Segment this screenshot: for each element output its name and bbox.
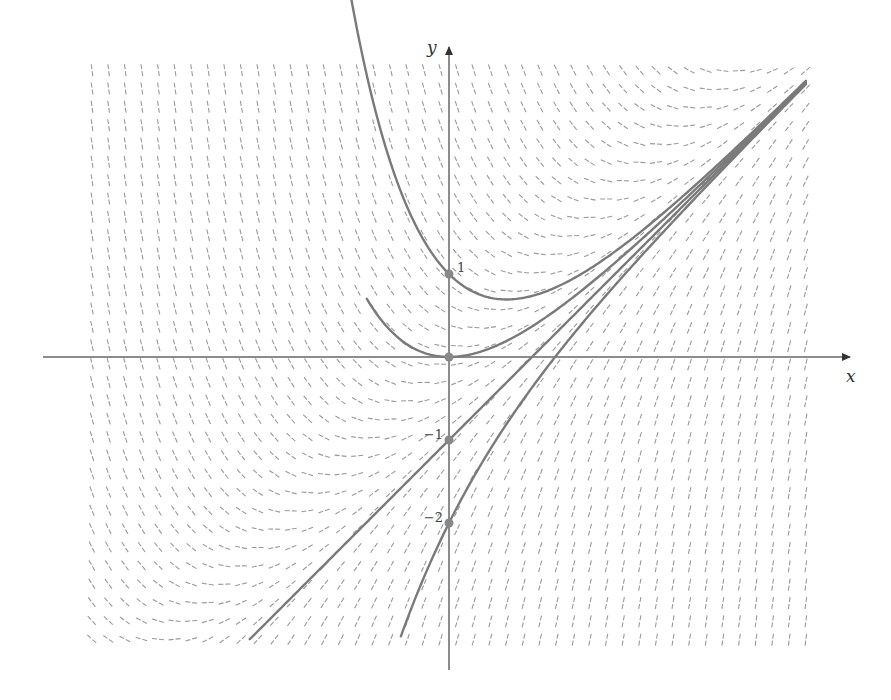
slope-segment [537,432,543,444]
slope-segment [187,525,196,534]
slope-segment [722,504,724,517]
slope-segment [355,230,360,242]
slope-segment [372,193,376,205]
slope-segment [240,64,242,77]
slope-segment [689,578,691,591]
slope-segment [717,106,729,110]
slope-segment [567,235,580,236]
slope-segment [108,248,110,261]
slope-segment [236,527,248,532]
slope-segment [141,101,143,114]
slope-segment [570,377,576,388]
y-tick-label: −1 [424,427,443,442]
slope-segment [389,101,392,114]
slope-segment [805,468,807,481]
slope-segment [174,138,176,151]
slope-segment [438,560,443,572]
slope-segment [89,523,94,535]
slope-segment [572,560,575,573]
slope-segment [455,83,459,95]
slope-segment [422,596,427,608]
slope-segment [637,358,642,370]
slope-segment [470,212,478,223]
slope-segment [173,321,176,334]
slope-segment [688,523,691,536]
slope-segment [538,486,542,498]
slope-segment [306,248,310,260]
slope-segment [788,578,790,591]
slope-segment [124,101,126,114]
slope-segment [653,285,660,296]
slope-segment [323,101,326,114]
slope-segment [538,523,542,535]
slope-segment [124,321,127,334]
slope-segment [484,326,497,328]
slope-segment [488,64,492,76]
slope-segment [207,193,210,206]
slope-segment [539,560,542,573]
slope-segment [467,345,480,347]
slope-segment [257,83,259,96]
slope-segment [384,419,397,420]
slope-segment [140,431,144,443]
slope-segment [804,230,808,242]
slope-segment [141,138,143,151]
slope-segment [273,156,276,169]
slope-segment [190,284,193,297]
slope-segment [335,435,347,439]
slope-segment [369,360,379,368]
slope-segment [356,119,359,132]
slope-segment [304,615,311,626]
slope-segment [604,377,609,389]
slope-segment [338,597,345,608]
slope-segment [603,65,610,76]
slope-segment [455,578,459,590]
slope-segment [737,266,742,278]
slope-segment [504,450,510,461]
slope-segment [755,504,757,517]
slope-segment [683,125,696,126]
slope-segment [805,431,807,444]
slope-segment [755,449,758,462]
slope-segment [91,321,94,334]
slope-segment [601,140,612,147]
slope-segment [239,340,244,352]
slope-segment [605,431,609,443]
slope-segment [667,177,678,183]
slope-segment [605,541,608,554]
slope-segment [655,633,657,646]
slope-segment [107,339,110,352]
slope-segment [736,212,742,223]
slope-segment [722,559,724,572]
slope-segment [487,432,494,443]
slope-segment [753,230,758,242]
slope-segment [771,449,774,462]
slope-segment [754,285,758,297]
slope-segment [670,267,677,278]
slope-segment [522,633,525,646]
slope-segment [688,376,692,388]
slope-segment [587,84,594,95]
slope-segment [605,614,608,627]
slope-segment [651,196,662,203]
slope-segment [686,230,693,241]
slope-segment [619,84,628,94]
slope-segment [174,156,176,169]
slope-segment [638,505,641,518]
slope-segment [672,614,674,627]
slope-segment [437,469,445,479]
slope-segment [671,340,676,352]
slope-segment [255,414,262,425]
solution-curves [250,0,806,639]
slope-segment [240,119,242,132]
slope-segment [190,303,193,316]
slope-segment [404,267,411,278]
slope-segment [91,248,93,261]
slope-segment [306,266,310,278]
slope-segment [587,340,594,351]
slope-segment [290,83,292,96]
slope-segment [621,395,626,407]
slope-segment [303,562,313,570]
solution-curve [401,84,806,636]
slope-segment [571,65,577,77]
